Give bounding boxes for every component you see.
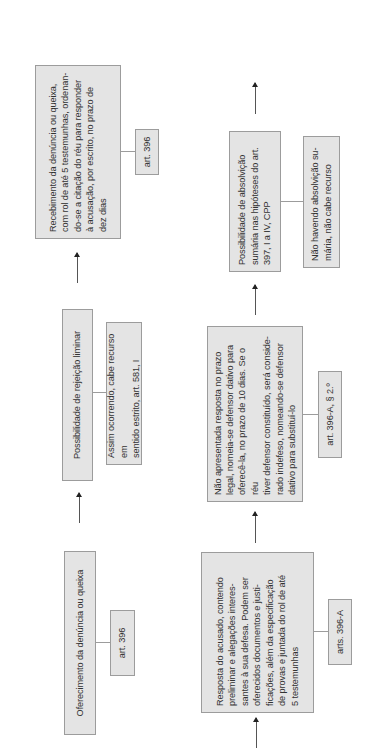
ref-text: art. 396-A, § 2.º xyxy=(324,383,336,445)
box-text: Não apresentada resposta no prazo legal,… xyxy=(212,333,299,495)
note-text: Assim ocorrendo, cabe recurso em sentido… xyxy=(105,329,142,458)
arrow-right-icon xyxy=(255,285,256,315)
note-box-recurso-sentido-estrito: Assim ocorrendo, cabe recurso em sentido… xyxy=(106,322,142,465)
flowchart-canvas: Oferecimento da denúncia ou queixa art. … xyxy=(0,0,372,748)
box-rejeicao-liminar: Possibilidade de rejeição liminar xyxy=(62,309,93,481)
arrow-right-icon xyxy=(77,253,78,283)
ref-text: art. 396 xyxy=(141,137,153,167)
arrow-right-icon xyxy=(255,512,256,543)
arrow-right-icon xyxy=(256,718,257,748)
box-recebimento-denuncia: Recebimento da denúncia ou queixa, com r… xyxy=(35,65,121,239)
box-resposta-acusado: Resposta do acusado, contendo preliminar… xyxy=(201,552,314,713)
box-text: Recebimento da denúncia ou queixa, com r… xyxy=(47,73,109,232)
connector-line xyxy=(93,392,106,393)
connector-line xyxy=(281,201,303,202)
box-text: Possibilidade de rejeição liminar xyxy=(71,331,83,459)
connector-line xyxy=(303,414,318,415)
ref-box-art-396: art. 396 xyxy=(135,129,159,175)
connector-line xyxy=(96,642,110,643)
box-text: Resposta do acusado, contendo preliminar… xyxy=(214,575,301,706)
ref-box-art-396-a-par-2: art. 396-A, § 2.º xyxy=(318,371,342,458)
box-nao-apresentada-resposta: Não apresentada resposta no prazo legal,… xyxy=(207,326,303,502)
arrow-right-icon xyxy=(79,493,80,523)
note-text: Não havendo absolvição su- mária, não ca… xyxy=(309,148,334,261)
ref-box-arts-396-a: arts. 396-A xyxy=(328,599,352,665)
box-text: Possibilidade de absolvição sumária nas … xyxy=(236,147,273,265)
box-text: Oferecimento da denúncia ou queixa xyxy=(74,570,86,717)
note-box-nao-cabe-recurso: Não havendo absolvição su- mária, não ca… xyxy=(303,136,340,268)
box-absolvicao-sumaria: Possibilidade de absolvição sumária nas … xyxy=(229,131,281,272)
connector-line xyxy=(314,631,328,632)
ref-box-art-396: art. 396 xyxy=(110,610,135,676)
box-oferecimento-denuncia: Oferecimento da denúncia ou queixa xyxy=(64,551,96,735)
connector-line xyxy=(121,151,135,152)
arrow-right-icon xyxy=(255,83,256,114)
ref-text: arts. 396-A xyxy=(334,610,346,654)
ref-text: art. 396 xyxy=(116,628,128,658)
